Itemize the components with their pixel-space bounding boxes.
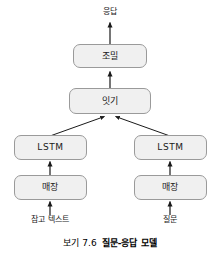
node-embedding-right[interactable]: 매장 <box>134 175 207 200</box>
node-concatenate[interactable]: 잇기 <box>69 88 151 114</box>
node-dense[interactable]: 조밀 <box>73 44 147 68</box>
node-lstm-right-label: LSTM <box>157 143 183 152</box>
input-label-question: 질문 <box>145 216 195 224</box>
node-lstm-left-label: LSTM <box>37 143 63 152</box>
node-embedding-left[interactable]: 매장 <box>14 175 87 200</box>
node-dense-label: 조밀 <box>102 52 118 61</box>
figure-caption: 보기 7.6질문-응답 모델 <box>0 236 220 249</box>
node-concatenate-label: 잇기 <box>102 97 118 106</box>
caption-number: 보기 7.6 <box>63 238 96 248</box>
caption-title: 질문-응답 모델 <box>102 238 157 248</box>
node-embedding-right-label: 매장 <box>162 183 178 192</box>
node-lstm-right[interactable]: LSTM <box>134 135 207 160</box>
node-lstm-left[interactable]: LSTM <box>14 135 87 160</box>
node-embedding-left-label: 매장 <box>42 183 58 192</box>
figure-container: 응답 조밀 잇기 LSTM LSTM 매장 매장 참고 텍스트 질문 보기 7.… <box>0 0 220 256</box>
arrow-lstm-left-to-concat <box>50 117 105 137</box>
output-label: 응답 <box>85 8 135 16</box>
input-label-reference-text: 참고 텍스트 <box>10 216 90 224</box>
arrow-lstm-right-to-concat <box>116 117 171 137</box>
